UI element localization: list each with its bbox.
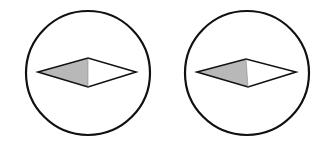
compass-figure-1 xyxy=(26,11,150,135)
diagram-canvas xyxy=(0,0,324,148)
compass-figure-2 xyxy=(185,11,309,135)
